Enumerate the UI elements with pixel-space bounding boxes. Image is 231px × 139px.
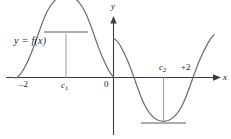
critical-point-label-c1: c1 (61, 81, 68, 91)
function-label: y = f(x) (14, 36, 46, 46)
x-axis-label: x (223, 73, 227, 82)
y-axis-label: y (111, 2, 115, 11)
tick-label-minus-2: –2 (19, 80, 28, 89)
origin-label: 0 (104, 80, 109, 89)
critical-point-c1-subscript: 1 (65, 84, 68, 91)
function-label-text: y = f(x) (14, 35, 46, 46)
tick-label-plus-2: +2 (181, 63, 191, 72)
critical-point-label-c2: c2 (159, 63, 166, 73)
graph-canvas (0, 0, 231, 139)
x-axis-arrow-icon (213, 74, 221, 81)
graph-figure: y = f(x) y x 0 –2 +2 c1 c2 (0, 0, 231, 139)
y-axis-arrow-icon (110, 16, 116, 24)
critical-point-c2-subscript: 2 (163, 66, 166, 73)
y-axis (110, 16, 116, 135)
